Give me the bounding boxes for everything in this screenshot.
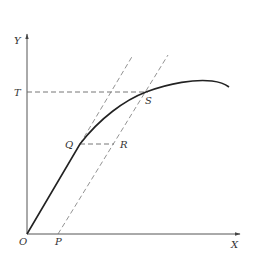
point-p-label: P [54,236,62,247]
point-t-label: T [14,87,22,98]
elastic-extension-dashed-line [80,55,133,144]
point-q-label: Q [65,139,73,150]
stress-strain-curve [27,80,229,234]
y-axis-label: Y [14,35,22,46]
point-s-label: S [145,95,152,106]
x-axis-label: X [230,239,239,250]
point-o-label: O [19,236,27,247]
point-r-label: R [119,139,128,150]
offset-dashed-line [58,55,168,234]
diagram-canvas: Y X O P Q R S T [0,0,254,264]
